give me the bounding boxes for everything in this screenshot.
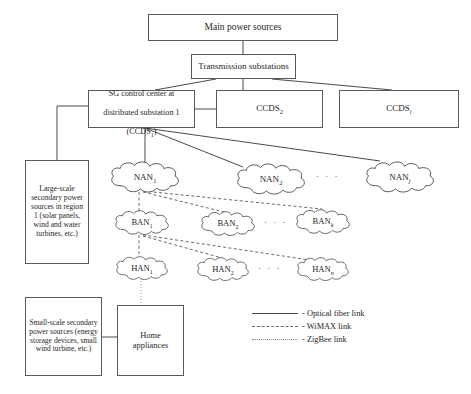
nanj-cloud: NANj — [361, 161, 439, 194]
han1-cloud: HAN1 — [112, 256, 172, 281]
ban2-label: BAN2 — [217, 218, 238, 230]
nan2-label: NAN2 — [260, 174, 283, 186]
bank-label: BANk — [313, 216, 334, 228]
han2-label: HAN2 — [212, 264, 234, 276]
home-appliances-label: Home appliances — [130, 331, 171, 351]
han2-name: HAN — [212, 264, 231, 274]
ban2-name: BAN — [217, 218, 235, 228]
hann-cloud: HANn — [293, 257, 353, 282]
home-appliances-box: Home appliances — [117, 305, 184, 376]
ban2-subscript: 2 — [236, 223, 239, 230]
nanj-label: NANj — [389, 172, 410, 184]
transmission-substations-box: Transmission substations — [191, 54, 296, 79]
legend-label-zigbee: - ZigBee link — [302, 335, 347, 344]
nan2-subscript: 2 — [279, 178, 282, 185]
ban1-cloud: BAN1 — [110, 210, 174, 236]
bank-name: BAN — [313, 216, 331, 226]
ccds2-label: CCDS2 — [253, 103, 286, 115]
legend-label-wimax: - WiMAX link — [302, 322, 351, 331]
nan2-cloud: NAN2 — [232, 163, 310, 196]
ccdsi-box: CCDSi — [339, 90, 459, 128]
link-transmission-to-ccdsi — [272, 79, 392, 90]
nanj-name: NAN — [389, 172, 409, 182]
bank-subscript: k — [331, 221, 334, 228]
legend: - Optical fiber link - WiMAX link - ZigB… — [252, 307, 432, 346]
han2-subscript: 2 — [231, 268, 234, 275]
nan-row-ellipsis: · · · — [316, 171, 340, 181]
large-scale-power-sources-box: Large-scale secondary power sources in r… — [25, 160, 89, 264]
legend-label-optical-fiber: - Optical fiber link — [302, 309, 365, 318]
wimax-line-icon — [252, 326, 298, 327]
transmission-substations-label: Transmission substations — [195, 61, 291, 72]
han1-subscript: 1 — [150, 267, 153, 274]
ccds2-prefix: CCDS — [256, 103, 280, 113]
ccdsi-subscript: i — [410, 108, 412, 115]
ccds2-box: CCDS2 — [216, 90, 323, 128]
main-power-sources-box: Main power sources — [148, 14, 338, 41]
sg-control-center-line3-post: ) — [154, 127, 157, 136]
small-scale-power-sources-box: Small-scale secondary power sources (ene… — [25, 297, 102, 376]
hann-subscript: n — [331, 268, 334, 275]
small-scale-power-sources-label: Small-scale secondary power sources (ene… — [26, 319, 101, 355]
ban-row-ellipsis: · · · — [264, 217, 288, 227]
ban1-subscript: 1 — [150, 222, 153, 229]
sg-control-center-line2: distributed substation 1 — [103, 108, 179, 117]
sg-control-center-box: SG control center at distributed substat… — [88, 90, 195, 128]
legend-item-zigbee: - ZigBee link — [252, 333, 432, 346]
zigbee-line-icon — [252, 339, 298, 340]
ban2-cloud: BAN2 — [196, 211, 260, 237]
bank-cloud: BANk — [291, 209, 355, 235]
link-ccds1-to-large-scale — [57, 106, 88, 160]
ban1-name: BAN — [131, 217, 149, 227]
ccds2-subscript: 2 — [280, 108, 283, 115]
hann-label: HANn — [312, 264, 334, 276]
nan1-cloud: NAN1 — [106, 161, 184, 194]
network-architecture-diagram: Main power sources Transmission substati… — [0, 0, 471, 394]
legend-item-wimax: - WiMAX link — [252, 320, 432, 333]
ccdsi-prefix: CCDS — [386, 103, 410, 113]
sg-control-center-label: SG control center at distributed substat… — [100, 79, 182, 139]
main-power-sources-label: Main power sources — [201, 22, 284, 33]
han1-label: HAN1 — [131, 263, 153, 275]
han2-cloud: HAN2 — [193, 257, 253, 282]
han-row-ellipsis: · · · — [258, 263, 282, 273]
han1-name: HAN — [131, 263, 150, 273]
link-ban1-to-han2 — [143, 236, 222, 258]
nan1-label: NAN1 — [134, 172, 157, 184]
ccdsi-label: CCDSi — [383, 103, 414, 115]
nan1-name: NAN — [134, 172, 154, 182]
nanj-subscript: j — [409, 176, 411, 183]
nan2-name: NAN — [260, 174, 280, 184]
ban1-label: BAN1 — [131, 217, 152, 229]
nan1-subscript: 1 — [153, 176, 156, 183]
hann-name: HAN — [312, 264, 331, 274]
legend-item-optical-fiber: - Optical fiber link — [252, 307, 432, 320]
optical-fiber-line-icon — [252, 313, 298, 314]
large-scale-power-sources-label: Large-scale secondary power sources in r… — [26, 185, 88, 239]
sg-control-center-line1: SG control center at — [109, 89, 175, 98]
sg-control-center-line3-pre: (CCDS — [127, 127, 151, 136]
